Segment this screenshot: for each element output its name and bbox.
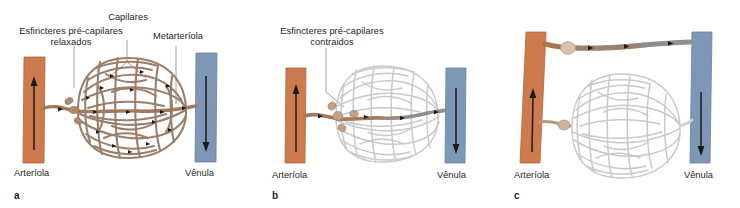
metarteriole-a (44, 106, 196, 112)
label-capillaries-a: Capilares (96, 12, 160, 23)
label-sphincters-b: Esfincteres pré-capilares contraidos (264, 26, 400, 49)
label-arteriole-b: Arteríola (272, 170, 307, 180)
panel-c: Arteríola Vênula c (492, 0, 740, 208)
label-arteriole-c: Arteríola (514, 170, 549, 180)
leader-lines-a (74, 40, 176, 104)
panel-a: Esfincteres pré-capilares relaxados Capi… (0, 0, 248, 208)
panel-letter-c: c (514, 190, 520, 201)
label-venule-b: Vênula (437, 170, 466, 180)
inlet-sphincter-c (558, 120, 570, 130)
shunt-sphincter-c (561, 42, 576, 54)
label-sphincters-a: Esfincteres pré-capilares relaxados (8, 26, 134, 49)
label-venule-a: Vênula (185, 168, 214, 178)
panel-letter-b: b (272, 190, 278, 201)
label-arteriole-a: Arteríola (14, 168, 49, 178)
capillary-network-c (572, 74, 680, 178)
panel-b: Esfincteres pré-capilares contraidos Art… (248, 0, 492, 208)
panel-letter-a: a (14, 190, 20, 201)
capillary-network-a (78, 58, 186, 158)
label-venule-c: Vênula (684, 170, 713, 180)
label-metarteriole-a: Metarteríola (142, 31, 214, 42)
thoroughfare-channel-b (305, 110, 446, 119)
capillary-bed-figure: Esfincteres pré-capilares relaxados Capi… (0, 0, 740, 208)
